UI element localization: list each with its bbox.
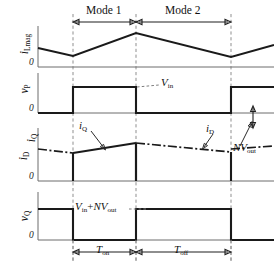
vin-nvout-annotation: Vin+NVout — [75, 201, 117, 214]
v-q-axis-label-main: v — [18, 216, 30, 221]
i-q-axis-label-main: i — [25, 139, 37, 142]
i-lmag-axis-label-main: i — [18, 51, 30, 54]
i-d-waveform — [136, 143, 231, 152]
i-lmag-zero-label: 0 — [29, 58, 34, 68]
vin-nvout-part2-sub: out — [108, 206, 117, 214]
vin-leader-line — [137, 85, 159, 87]
v-p-axis-label-sub: P — [23, 84, 32, 88]
i-lmag-axis-label: iLmag — [19, 27, 31, 61]
i-d-i-q-zero-label: 0 — [29, 172, 34, 182]
nvout-annotation-sub: out — [247, 147, 256, 155]
mode2-label: Mode 2 — [165, 5, 200, 17]
mode-bar — [73, 19, 231, 24]
v-q-waveform — [38, 209, 274, 240]
i-q-annotation: iQ — [79, 120, 87, 133]
ton-label: Ton — [96, 244, 109, 257]
v-q-axis-label-sub: Q — [23, 211, 32, 216]
waveform-canvas — [0, 0, 274, 274]
ton-label-sub: on — [102, 249, 109, 257]
i-d-annotation-sub: D — [209, 128, 214, 136]
vin-annotation-sub: in — [168, 82, 173, 90]
v-p-zero-label: 0 — [29, 104, 34, 114]
i-q-axis-label: iQ — [26, 118, 38, 158]
v-q-zero-label: 0 — [29, 231, 34, 241]
v-p-axis-label: vP — [19, 78, 31, 100]
i-lmag-axis-label-sub: Lmag — [23, 34, 32, 51]
i-q-annotation-sub: Q — [82, 125, 87, 133]
toff-label-sub: off — [180, 249, 188, 257]
vin-annotation-main: V — [161, 76, 168, 88]
nvout-annotation: NVout — [233, 142, 256, 155]
mode1-label: Mode 1 — [86, 5, 121, 17]
nvout-annotation-main: NV — [233, 141, 247, 153]
i-q-axis-label-sub: Q — [30, 134, 39, 139]
vin-nvout-part1-main: V — [75, 200, 82, 212]
waveform-figure: Mode 1 Mode 2 iLmag 0 vP 0 Vin iD iQ 0 i… — [0, 0, 274, 274]
vin-nvout-part2-main: NV — [93, 200, 107, 212]
i-d-annotation: iD — [206, 123, 214, 136]
i-d-tail-left — [38, 149, 73, 153]
i-d-pointer-line — [204, 134, 213, 147]
v-p-axis-label-main: v — [18, 88, 30, 93]
toff-label: Toff — [174, 244, 188, 257]
v-p-waveform — [38, 87, 274, 113]
panel-v-q — [38, 192, 274, 240]
vin-annotation: Vin — [161, 77, 173, 90]
v-q-axis-label: vQ — [19, 205, 31, 227]
